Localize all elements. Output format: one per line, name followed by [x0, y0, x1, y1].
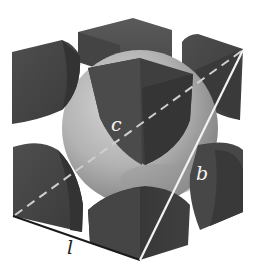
diagram-canvas: c b l: [0, 0, 261, 277]
label-b: b: [196, 162, 208, 184]
label-l: l: [67, 236, 73, 258]
bcc-unit-cell-diagram: c b l: [0, 0, 261, 277]
label-c: c: [111, 113, 122, 135]
